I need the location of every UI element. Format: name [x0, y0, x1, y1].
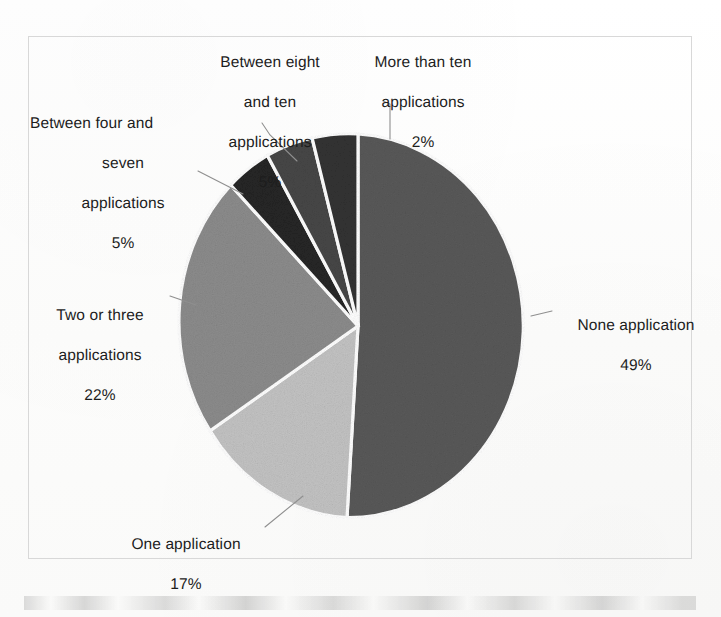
pie-label-two-or-three: Two or three applications 22%: [26, 286, 174, 426]
pie-label-line2: seven: [30, 154, 216, 174]
leader-line-none-application: [531, 311, 552, 316]
pie-label-line2: applications: [348, 93, 498, 113]
chart-page: Between four and seven applications 5% B…: [0, 0, 721, 617]
bleed-line: [24, 596, 696, 610]
pie-label-percent: 49%: [556, 356, 716, 376]
pie-label-line1: More than ten: [348, 53, 498, 73]
page-bleed-text-smudge: [0, 594, 721, 617]
pie-label-line1: None application: [556, 316, 716, 336]
pie-label-line3: applications: [196, 133, 344, 153]
pie-slice-none-application[interactable]: [347, 134, 523, 518]
pie-label-more-than-ten: More than ten applications 2%: [348, 33, 498, 173]
pie-label-between-eight-and-ten: Between eight and ten applications 5%: [196, 33, 344, 213]
pie-label-line3: applications: [30, 194, 216, 214]
pie-label-line1: Two or three: [26, 306, 174, 326]
pie-label-between-four-and-seven: Between four and seven applications 5%: [30, 94, 216, 274]
pie-label-percent: 22%: [26, 386, 174, 406]
pie-label-line1: Between four and: [30, 115, 153, 132]
pie-label-percent: 5%: [30, 234, 216, 254]
pie-label-line2: applications: [26, 346, 174, 366]
pie-label-line1: Between eight: [196, 53, 344, 73]
pie-label-none-application: None application 49%: [556, 296, 716, 396]
pie-label-line2: and ten: [196, 93, 344, 113]
pie-label-line1: One application: [96, 535, 276, 555]
pie-label-percent: 5%: [196, 173, 344, 193]
pie-label-percent: 17%: [96, 575, 276, 595]
pie-label-percent: 2%: [348, 133, 498, 153]
